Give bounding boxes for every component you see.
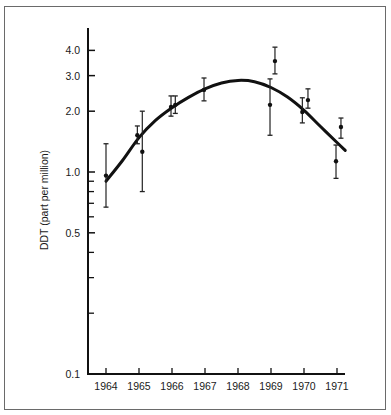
axes [87,28,345,374]
data-point [173,96,178,113]
point-marker [300,110,304,114]
x-tick-label: 1964 [94,380,118,392]
point-marker [339,125,343,129]
data-point [104,144,109,207]
point-marker [173,103,177,107]
data-point [334,145,339,178]
x-axis-ticks: 19641965196619671968196919701971 [94,368,349,392]
data-point [140,111,145,191]
y-tick-label: 1.0 [65,166,80,178]
x-tick-label: 1970 [292,380,316,392]
x-tick-label: 1971 [325,380,349,392]
data-point [338,118,343,138]
y-tick-label: 0.5 [65,227,80,239]
data-points [104,47,344,207]
point-marker [202,88,206,92]
point-marker [334,159,338,163]
y-tick-label: 4.0 [65,44,80,56]
x-tick-label: 1966 [160,380,184,392]
x-tick-label: 1965 [127,380,151,392]
x-tick-label: 1967 [193,380,217,392]
point-marker [135,133,139,137]
point-marker [306,98,310,102]
point-marker [169,105,173,109]
point-marker [104,173,108,177]
data-point [169,96,174,116]
data-point [305,89,310,108]
y-tick-label: 2.0 [65,105,80,117]
point-marker [273,59,277,63]
ddt-log-chart: 4.03.02.01.00.50.1 196419651966196719681… [0,0,391,415]
point-marker [268,103,272,107]
x-tick-label: 1968 [226,380,250,392]
y-axis-ticks: 4.03.02.01.00.50.1 [65,44,95,380]
data-point [202,78,207,101]
y-tick-label: 0.1 [65,368,80,380]
y-tick-label: 3.0 [65,70,80,82]
point-marker [140,150,144,154]
y-axis-label: DDT (part per million) [38,150,50,250]
data-point [272,47,277,74]
x-tick-label: 1969 [259,380,283,392]
